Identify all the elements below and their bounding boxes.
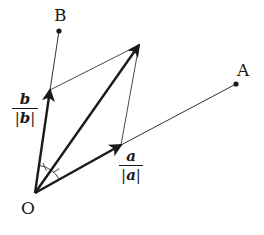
point-a-dot bbox=[233, 81, 238, 86]
abs-letter: a bbox=[126, 166, 136, 184]
label-a: A bbox=[237, 62, 249, 79]
abs-bar-right: | bbox=[30, 109, 35, 127]
unit-vector-a-arrow bbox=[35, 145, 121, 193]
label-o: O bbox=[21, 200, 35, 217]
parallelogram-edge-top bbox=[50, 45, 139, 90]
abs-letter: b bbox=[20, 109, 31, 127]
ray-oa bbox=[121, 84, 236, 145]
label-unit-a-numerator: a bbox=[126, 149, 136, 163]
label-unit-vector-a: a |a| bbox=[118, 149, 144, 182]
label-unit-a-denominator: |a| bbox=[121, 168, 141, 182]
abs-bar-right: | bbox=[136, 166, 141, 184]
label-unit-vector-b: b |b| bbox=[11, 92, 39, 125]
point-b-dot bbox=[56, 28, 61, 33]
label-unit-b-numerator: b bbox=[20, 92, 31, 106]
parallelogram-edge-right bbox=[121, 45, 139, 145]
ray-ob bbox=[50, 31, 59, 90]
vector-diagram bbox=[0, 0, 264, 235]
label-b: B bbox=[54, 7, 67, 24]
angle-tick-2 bbox=[54, 169, 60, 173]
label-unit-b-denominator: |b| bbox=[15, 111, 36, 125]
